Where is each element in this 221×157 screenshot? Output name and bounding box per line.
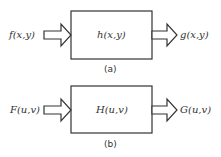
input-label-a: f(x,y) <box>9 29 35 41</box>
input-label-b: F(u,v) <box>10 104 40 116</box>
input-arrow-a-icon <box>44 24 71 46</box>
system-label-a: h(x,y) <box>97 29 126 41</box>
output-arrow-b-icon <box>152 99 177 121</box>
input-arrow-b-icon <box>44 99 71 121</box>
system-label-b: H(u,v) <box>96 104 128 116</box>
caption-b: (b) <box>104 138 117 150</box>
output-label-a: g(x,y) <box>180 29 209 41</box>
output-arrow-a-icon <box>152 24 177 46</box>
output-label-b: G(u,v) <box>180 104 211 116</box>
diagram-canvas <box>0 0 221 157</box>
caption-a: (a) <box>104 63 117 75</box>
